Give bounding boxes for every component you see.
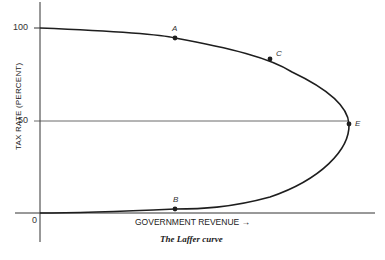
y-tick-100: 100 — [13, 22, 28, 32]
point-e-marker — [347, 122, 352, 127]
chart-caption: The Laffer curve — [160, 234, 223, 244]
point-a-marker — [173, 36, 178, 41]
point-b-marker — [173, 207, 178, 212]
point-b-label: B — [173, 195, 178, 204]
point-a-label: A — [172, 24, 177, 33]
y-axis-label: TAX RATE (PERCENT) — [14, 63, 23, 150]
point-e-label: E — [355, 119, 360, 128]
y-tick-0: 0 — [32, 215, 37, 225]
x-axis-label: GOVERNMENT REVENUE → — [135, 217, 250, 227]
laffer-curve — [40, 28, 349, 213]
point-c-marker — [268, 57, 273, 62]
point-c-label: C — [276, 49, 282, 58]
